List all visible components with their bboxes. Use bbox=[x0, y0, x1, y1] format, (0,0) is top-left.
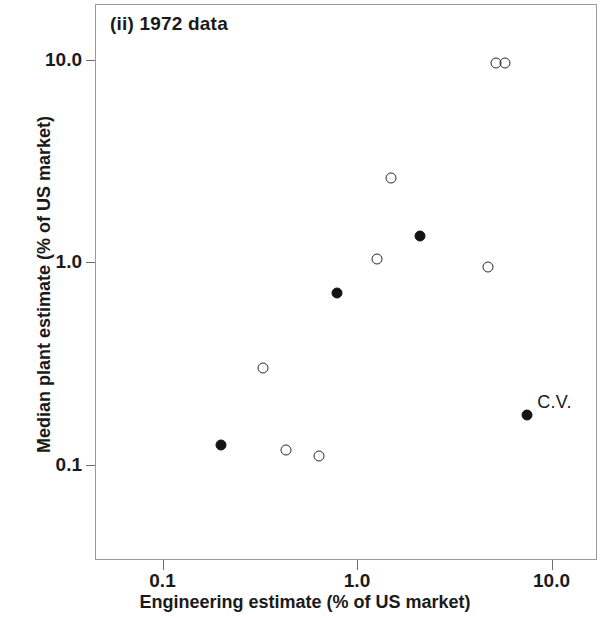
y-axis-tick bbox=[86, 262, 95, 263]
y-axis-title: Median plant estimate (% of US market) bbox=[34, 7, 55, 563]
data-point-open bbox=[482, 261, 493, 272]
data-point-filled bbox=[522, 410, 533, 421]
x-axis-tick-label: 1.0 bbox=[344, 570, 370, 592]
scatter-chart-figure: (ii) 1972 data C.V. 10.01.00.1 0.11.010.… bbox=[0, 0, 610, 618]
x-axis-tick bbox=[357, 560, 358, 570]
data-markers-layer: C.V. bbox=[95, 4, 597, 560]
y-axis-tick bbox=[86, 60, 95, 61]
x-axis-tick bbox=[552, 560, 553, 570]
data-point-filled bbox=[216, 439, 227, 450]
x-axis-title: Engineering estimate (% of US market) bbox=[0, 592, 610, 613]
y-axis-tick bbox=[86, 465, 95, 466]
data-point-filled bbox=[332, 288, 343, 299]
x-axis-tick-label: 10.0 bbox=[533, 570, 570, 592]
data-point-open bbox=[499, 58, 510, 69]
x-axis-tick bbox=[163, 560, 164, 570]
data-point-open bbox=[314, 451, 325, 462]
point-annotation: C.V. bbox=[537, 392, 572, 413]
data-point-open bbox=[280, 444, 291, 455]
data-point-open bbox=[386, 172, 397, 183]
data-point-open bbox=[258, 362, 269, 373]
data-point-open bbox=[372, 253, 383, 264]
data-point-filled bbox=[414, 230, 425, 241]
x-axis-tick-label: 0.1 bbox=[149, 570, 175, 592]
